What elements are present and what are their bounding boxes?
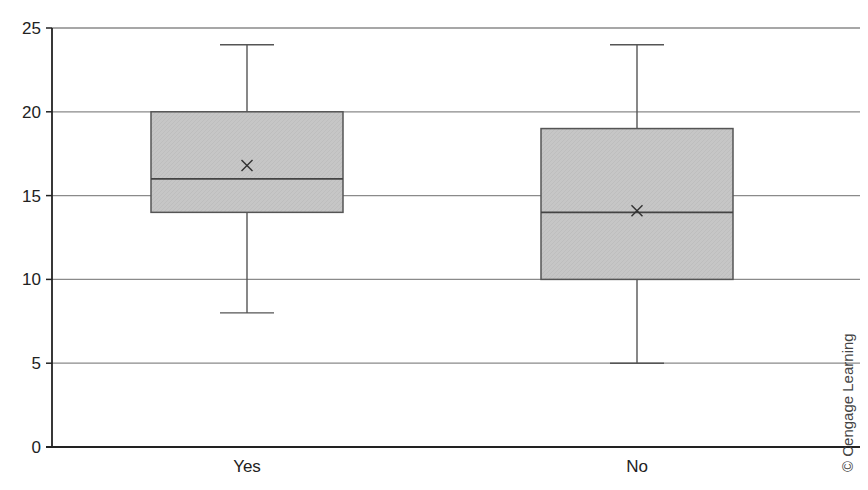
- y-tick-label: 20: [22, 103, 41, 122]
- box-no: [541, 45, 733, 363]
- y-tick-label: 10: [22, 270, 41, 289]
- y-tick-label: 5: [32, 354, 41, 373]
- iqr-box: [541, 129, 733, 280]
- y-tick-label: 15: [22, 187, 41, 206]
- iqr-box: [151, 112, 343, 213]
- box-yes: [151, 45, 343, 313]
- copyright-credit: © Cengage Learning: [839, 333, 856, 472]
- box-plot-chart: 0510152025 YesNo © Cengage Learning: [0, 0, 868, 490]
- category-label-no: No: [626, 457, 648, 476]
- y-tick-label: 0: [32, 438, 41, 457]
- category-labels: YesNo: [233, 457, 648, 476]
- category-label-yes: Yes: [233, 457, 261, 476]
- y-tick-label: 25: [22, 19, 41, 38]
- box-series: [151, 45, 733, 363]
- y-axis: 0510152025: [22, 19, 52, 457]
